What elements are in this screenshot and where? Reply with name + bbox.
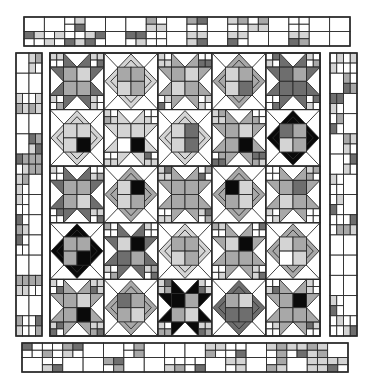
quilt-block-star	[50, 53, 104, 110]
quilt-block-star	[158, 166, 212, 223]
border-bottom	[22, 343, 348, 372]
quilt-block-star	[266, 166, 320, 223]
quilt-block-diamond	[212, 279, 266, 336]
quilt-block-star	[158, 53, 212, 110]
quilt-block-star	[104, 223, 158, 280]
quilt-block-diamond	[104, 166, 158, 223]
quilt-diagram	[0, 0, 372, 385]
quilt-block-star	[212, 110, 266, 167]
quilt-block-diamond	[212, 53, 266, 110]
quilt-block-diamond	[266, 223, 320, 280]
quilt-block-star	[158, 279, 212, 336]
quilt-block-diamond	[104, 279, 158, 336]
quilt-block-star	[212, 223, 266, 280]
quilt-block-star	[50, 166, 104, 223]
quilt-block-diamond	[50, 110, 104, 167]
quilt-block-star	[266, 279, 320, 336]
quilt-block-diamond	[104, 53, 158, 110]
quilt-block-star	[266, 53, 320, 110]
quilt-block-diamond	[50, 223, 104, 280]
quilt-block-diamond	[212, 166, 266, 223]
border-right	[330, 53, 357, 336]
quilt-center	[50, 53, 320, 336]
quilt-block-star	[104, 110, 158, 167]
quilt-svg	[0, 0, 372, 385]
quilt-block-diamond	[266, 110, 320, 167]
border-top	[24, 17, 350, 46]
quilt-block-diamond	[158, 223, 212, 280]
quilt-block-diamond	[158, 110, 212, 167]
quilt-block-star	[50, 279, 104, 336]
border-left	[16, 53, 42, 336]
